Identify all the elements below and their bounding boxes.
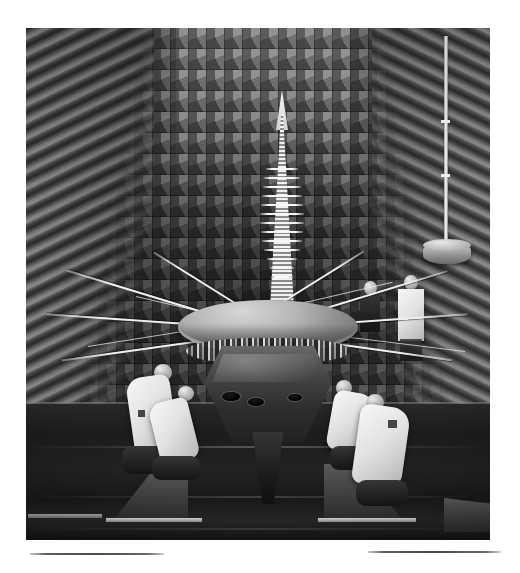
spacecraft-anechoic-chamber-photo: A spinning-disc spacecraft with a large … xyxy=(26,28,490,540)
far-left-stand-edge xyxy=(28,514,102,518)
mast-rung xyxy=(266,168,298,170)
right-support-stand-edge xyxy=(318,518,416,522)
mast-rung xyxy=(261,231,303,233)
mast-rung xyxy=(267,258,297,260)
spacecraft-model xyxy=(26,28,490,540)
technician-legs xyxy=(152,456,200,480)
mast-rung xyxy=(271,276,293,278)
caption-rule-left xyxy=(30,553,164,555)
mast-rung xyxy=(263,186,301,188)
mast-rung xyxy=(270,267,294,269)
technician-badge xyxy=(388,420,397,428)
caption-rule-right xyxy=(368,551,501,553)
adapter-cone xyxy=(240,432,296,504)
technician-badge xyxy=(138,410,145,417)
mast-rung xyxy=(261,204,303,206)
mast-rung xyxy=(262,195,302,197)
bus-port xyxy=(248,398,264,406)
technician-legs xyxy=(356,480,408,506)
bus-port xyxy=(288,394,302,401)
mast-rung xyxy=(262,240,302,242)
page-canvas: A spinning-disc spacecraft with a large … xyxy=(0,0,520,573)
bus-port xyxy=(222,392,240,401)
mast-rung xyxy=(260,213,304,215)
mast-rung xyxy=(264,249,300,251)
mast-rung xyxy=(264,177,300,179)
far-right-support-stand xyxy=(444,498,490,532)
left-support-stand-edge xyxy=(106,518,202,522)
mast-rung xyxy=(260,222,304,224)
